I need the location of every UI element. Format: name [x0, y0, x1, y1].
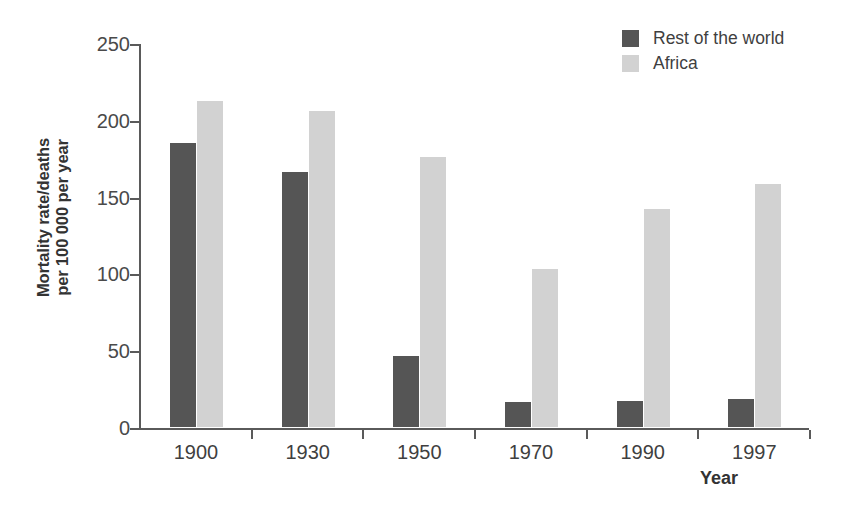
legend-swatch-icon-rest-of-the-world: [622, 30, 639, 47]
x-tick-label-1950: 1950: [359, 442, 479, 462]
y-axis-tick-labels: 050100150200250: [83, 44, 130, 429]
y-tick-100: [130, 274, 139, 276]
bar-1930-africa: [309, 111, 335, 427]
legend-item-africa: Africa: [622, 51, 784, 76]
y-axis-title-line-1: Mortality rate/deaths: [34, 32, 53, 402]
legend-item-rest-of-the-world: Rest of the world: [622, 26, 784, 51]
y-axis-line: [139, 44, 141, 429]
bar-1950-africa: [420, 157, 446, 427]
y-tick-label-50: 50: [108, 341, 130, 361]
bar-1990-rest-of-the-world: [617, 401, 643, 427]
y-tick-0: [130, 428, 139, 430]
bar-1997-africa: [755, 184, 781, 427]
x-tick-label-1970: 1970: [471, 442, 591, 462]
bar-1950-rest-of-the-world: [393, 356, 419, 427]
y-axis-title: Mortality rate/deaths per 100 000 per ye…: [34, 32, 73, 402]
x-tick-boundary-1: [251, 430, 253, 439]
x-tick-boundary-6: [809, 430, 811, 439]
y-axis-title-line-2: per 100 000 per year: [53, 32, 72, 402]
x-tick-label-1990: 1990: [583, 442, 703, 462]
y-tick-150: [130, 198, 139, 200]
x-axis-title: Year: [700, 468, 820, 489]
chart-legend: Rest of the world Africa: [622, 26, 784, 76]
x-tick-label-1930: 1930: [248, 442, 368, 462]
y-tick-label-100: 100: [97, 264, 130, 284]
legend-label-rest-of-the-world: Rest of the world: [653, 30, 784, 48]
y-tick-label-250: 250: [97, 34, 130, 54]
bar-1997-rest-of-the-world: [728, 399, 754, 427]
legend-swatch-icon-africa: [622, 55, 639, 72]
x-tick-boundary-4: [586, 430, 588, 439]
legend-label-africa: Africa: [653, 55, 698, 73]
x-tick-label-1997: 1997: [694, 442, 814, 462]
y-tick-250: [130, 44, 139, 46]
bar-1900-africa: [197, 101, 223, 427]
y-tick-200: [130, 121, 139, 123]
bar-1930-rest-of-the-world: [282, 172, 308, 427]
y-tick-label-150: 150: [97, 188, 130, 208]
y-axis-title-container: Mortality rate/deaths per 100 000 per ye…: [0, 0, 90, 460]
plot-area: 050100150200250 190019301950197019901997: [139, 44, 809, 428]
y-tick-50: [130, 351, 139, 353]
x-tick-boundary-3: [474, 430, 476, 439]
bar-chart-figure: Mortality rate/deaths per 100 000 per ye…: [0, 0, 848, 513]
bar-1990-africa: [644, 209, 670, 427]
bar-1900-rest-of-the-world: [170, 143, 196, 427]
x-tick-boundary-5: [697, 430, 699, 439]
x-tick-boundary-2: [362, 430, 364, 439]
bar-1970-rest-of-the-world: [505, 402, 531, 427]
y-tick-label-200: 200: [97, 111, 130, 131]
x-tick-label-1900: 1900: [136, 442, 256, 462]
y-tick-label-0: 0: [119, 418, 130, 438]
bar-1970-africa: [532, 269, 558, 427]
